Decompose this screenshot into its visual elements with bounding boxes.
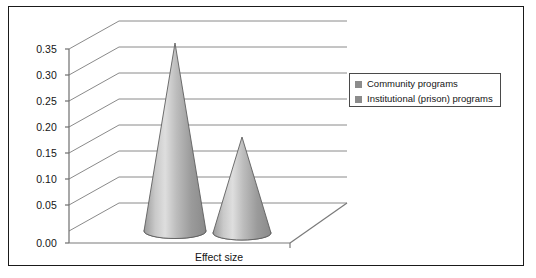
legend-label-institutional-programs: Institutional (prison) programs — [367, 94, 493, 104]
y-tick-label-6: 0.05 — [23, 199, 57, 211]
legend-label-community-programs: Community programs — [367, 79, 458, 89]
figure-frame: 0.35 0.30 0.25 0.20 0.15 0.10 0.05 0.00 … — [8, 6, 524, 266]
chart-legend: Community programs Institutional (prison… — [349, 73, 501, 107]
y-tick-label-0: 0.35 — [23, 43, 57, 55]
y-tick-label-5: 0.10 — [23, 173, 57, 185]
floor-axis — [69, 203, 347, 248]
legend-swatch-icon-community-programs — [355, 81, 362, 88]
y-tick-label-1: 0.30 — [23, 69, 57, 81]
depth-connectors — [69, 21, 119, 231]
x-axis-title: Effect size — [149, 251, 289, 263]
chart-plot-area: 0.35 0.30 0.25 0.20 0.15 0.10 0.05 0.00 … — [9, 7, 525, 267]
cone-community-programs — [144, 43, 206, 239]
chart-canvas — [9, 7, 525, 267]
cone-institutional-prison-programs — [213, 137, 271, 240]
legend-swatch-icon-institutional-programs — [355, 96, 362, 103]
legend-item-community-programs: Community programs — [355, 77, 495, 91]
y-axis — [65, 49, 69, 243]
y-tick-label-2: 0.25 — [23, 95, 57, 107]
y-tick-label-7: 0.00 — [23, 237, 57, 249]
legend-item-institutional-programs: Institutional (prison) programs — [355, 92, 495, 106]
y-tick-label-3: 0.20 — [23, 121, 57, 133]
y-tick-label-4: 0.15 — [23, 147, 57, 159]
